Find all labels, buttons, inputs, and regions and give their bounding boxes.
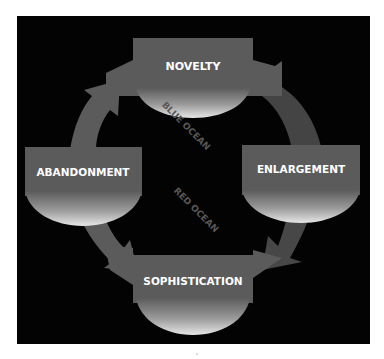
- cycle-diagram: NOVELTY ENLARGEMENT SOPHISTICATION ABAND…: [0, 0, 384, 359]
- stage-abandonment: [25, 147, 142, 226]
- stage-enlargement: [242, 145, 360, 223]
- stage-sophistication: [105, 245, 282, 335]
- label-sophistication: SOPHISTICATION: [143, 275, 242, 287]
- label-enlargement: ENLARGEMENT: [257, 163, 346, 175]
- sophistication-bowl: [136, 298, 250, 335]
- novelty-bowl: [136, 88, 250, 118]
- enlargement-bowl: [242, 190, 360, 223]
- label-abandonment: ABANDONMENT: [36, 166, 130, 178]
- abandonment-bowl: [25, 191, 142, 226]
- stage-novelty: [106, 38, 282, 118]
- zone-red-ocean: RED OCEAN: [172, 186, 221, 235]
- diagram-canvas: NOVELTY ENLARGEMENT SOPHISTICATION ABAND…: [0, 0, 384, 359]
- label-novelty: NOVELTY: [166, 60, 222, 73]
- stray-dot: [196, 353, 198, 355]
